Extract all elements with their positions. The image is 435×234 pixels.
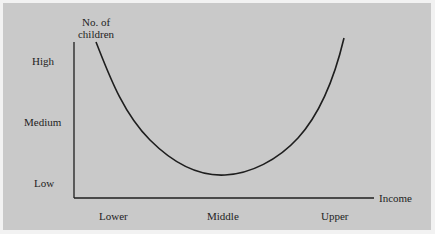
u-curve-line	[96, 38, 344, 175]
x-tick-upper: Upper	[321, 210, 349, 222]
y-tick-low: Low	[34, 177, 54, 189]
y-axis-title-line1: No. of	[66, 16, 126, 28]
y-tick-medium: Medium	[24, 116, 61, 128]
x-tick-lower: Lower	[99, 210, 128, 222]
x-tick-middle: Middle	[207, 210, 239, 222]
x-axis-title: Income	[379, 192, 412, 204]
y-axis-title-line2: children	[66, 28, 126, 40]
y-tick-high: High	[32, 55, 54, 67]
